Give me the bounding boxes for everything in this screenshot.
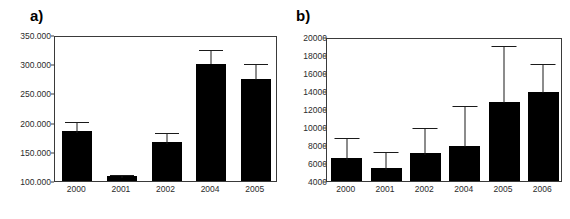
panel-a-plot-area bbox=[54, 36, 277, 182]
x-tick-label: 2006 bbox=[523, 184, 562, 194]
x-tick-label: 2000 bbox=[54, 184, 99, 194]
x-tick-label: 2001 bbox=[365, 184, 404, 194]
y-tick-label: 250.000 bbox=[20, 90, 51, 99]
bar-group bbox=[528, 39, 559, 181]
y-tick-label: 300.000 bbox=[20, 61, 51, 70]
error-bar-2005 bbox=[504, 46, 505, 103]
error-bar-2004 bbox=[464, 106, 465, 147]
error-bar-2004 bbox=[211, 50, 212, 63]
y-tick-label: 200.000 bbox=[20, 119, 51, 128]
bar-2005 bbox=[489, 102, 520, 181]
error-cap-2000 bbox=[65, 122, 89, 123]
bar-2006 bbox=[528, 92, 559, 181]
x-tick-label: 2004 bbox=[444, 184, 483, 194]
error-cap-2001 bbox=[374, 152, 399, 153]
bar-2002 bbox=[410, 153, 441, 181]
y-tick-label: 350.000 bbox=[20, 32, 51, 41]
bar-2000 bbox=[331, 158, 362, 181]
error-bar-2001 bbox=[386, 152, 387, 170]
error-bar-2002 bbox=[425, 128, 426, 155]
error-cap-2002 bbox=[413, 128, 438, 129]
bar-group bbox=[410, 39, 441, 181]
bar-2004 bbox=[196, 64, 226, 182]
panel-a: a) 350.000300.000250.000200.000150.00010… bbox=[0, 0, 285, 219]
bar-group bbox=[371, 39, 402, 181]
x-tick-label: 2001 bbox=[99, 184, 144, 194]
error-bar-2002 bbox=[166, 133, 167, 144]
x-tick-label: 2000 bbox=[326, 184, 365, 194]
error-cap-2002 bbox=[155, 133, 179, 134]
error-bar-2006 bbox=[543, 64, 544, 93]
error-cap-2006 bbox=[531, 64, 556, 65]
figure-bar-charts: a) 350.000300.000250.000200.000150.00010… bbox=[0, 0, 570, 219]
error-cap-2004 bbox=[452, 106, 477, 107]
error-cap-2001 bbox=[110, 175, 134, 176]
error-cap-2005 bbox=[244, 64, 268, 65]
x-tick-label: 2005 bbox=[232, 184, 277, 194]
error-bar-2000 bbox=[77, 122, 78, 133]
x-tick-label: 2002 bbox=[143, 184, 188, 194]
bar-group bbox=[331, 39, 362, 181]
error-bar-2005 bbox=[255, 64, 256, 79]
bar-2004 bbox=[449, 146, 480, 182]
bar-group bbox=[107, 37, 137, 181]
x-tick-label: 2004 bbox=[188, 184, 233, 194]
panel-b-y-axis: 2000018000160001400012000100008000600040… bbox=[279, 0, 327, 219]
panel-b-bars bbox=[327, 39, 561, 181]
error-bar-2000 bbox=[346, 138, 347, 160]
y-tick-label: 150.000 bbox=[20, 148, 51, 157]
error-cap-2004 bbox=[199, 50, 223, 51]
bar-2002 bbox=[152, 142, 182, 181]
panel-a-bars bbox=[55, 37, 276, 181]
error-cap-2005 bbox=[492, 46, 517, 47]
bar-group bbox=[489, 39, 520, 181]
y-tick-label: 100.000 bbox=[20, 178, 51, 187]
bar-2001 bbox=[371, 168, 402, 181]
bar-group bbox=[449, 39, 480, 181]
panel-a-y-axis: 350.000300.000250.000200.000150.000100.0… bbox=[3, 0, 51, 219]
panel-b: b) 2000018000160001400012000100008000600… bbox=[285, 0, 570, 219]
bar-group bbox=[152, 37, 182, 181]
bar-group bbox=[196, 37, 226, 181]
x-tick-label: 2002 bbox=[405, 184, 444, 194]
bar-group bbox=[241, 37, 271, 181]
bar-2000 bbox=[62, 131, 92, 181]
bar-group bbox=[62, 37, 92, 181]
x-tick-label: 2005 bbox=[483, 184, 522, 194]
bar-2005 bbox=[241, 79, 271, 181]
panel-b-plot-area bbox=[326, 38, 562, 182]
error-cap-2000 bbox=[334, 138, 359, 139]
